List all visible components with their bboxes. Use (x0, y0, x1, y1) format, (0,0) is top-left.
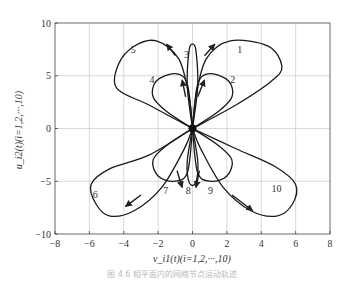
y-tick-label: −10 (35, 229, 51, 240)
x-tick-label: 0 (190, 238, 195, 249)
curve-label-8: 8 (186, 185, 191, 196)
direction-arrow-icon (125, 195, 140, 207)
y-tick-label: 10 (41, 18, 51, 29)
direction-arrow-icon (167, 44, 176, 56)
curve-label-1: 1 (237, 44, 242, 55)
y-tick-label: 5 (46, 70, 51, 81)
y-tick-label: 0 (46, 123, 51, 134)
y-axis-label: u_i2(t)(i=1,2,···,10) (13, 90, 25, 169)
y-tick-label: −5 (40, 176, 51, 187)
x-tick-label: 2 (224, 238, 229, 249)
x-tick-label: 8 (328, 238, 333, 249)
curve-label-5: 5 (131, 44, 136, 55)
x-tick-label: −6 (84, 238, 95, 249)
curve-label-4: 4 (150, 74, 155, 85)
direction-arrow-icon (232, 195, 253, 211)
x-tick-label: 4 (259, 238, 264, 249)
x-tick-label: 6 (293, 238, 298, 249)
phase-plane-chart: −8−6−4−202468−10−50510 12345678910 v_i1(… (0, 0, 344, 283)
x-tick-label: −8 (50, 238, 61, 249)
trajectory-7 (153, 129, 193, 182)
trajectory-10 (193, 129, 297, 217)
curve-label-9: 9 (208, 185, 213, 196)
direction-arrow-icon (177, 171, 182, 188)
x-tick-label: −4 (118, 238, 129, 249)
curve-label-2: 2 (230, 74, 235, 85)
direction-arrow-icon (182, 80, 185, 97)
curve-label-6: 6 (93, 189, 98, 200)
x-axis-label: v_i1(t)(i=1,2,···,10) (153, 253, 232, 265)
equilibrium-point (189, 125, 197, 133)
curve-label-7: 7 (163, 185, 168, 196)
figure-caption: 图 4.6 相平面内的网络节点运动轨迹 (0, 268, 344, 279)
x-tick-label: −2 (153, 238, 164, 249)
curve-label-3: 3 (184, 49, 189, 60)
curve-label-10: 10 (272, 183, 282, 194)
